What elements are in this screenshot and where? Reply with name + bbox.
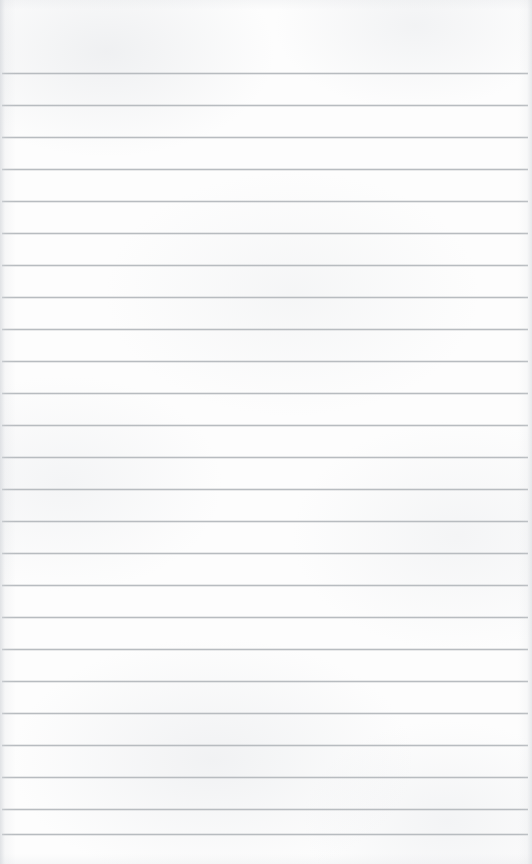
paper-background (0, 0, 532, 864)
ruled-paper-page (0, 0, 532, 864)
